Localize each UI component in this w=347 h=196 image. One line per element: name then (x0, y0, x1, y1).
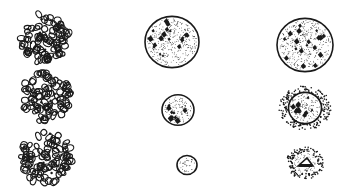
reticulated-nuclei-3 (18, 128, 76, 187)
degenerating-nuclei-3 (287, 146, 324, 179)
nuclei-figure (0, 0, 347, 196)
stippled-nuclei-with-chromatin-3 (177, 156, 197, 175)
degenerating-nuclei-2 (278, 85, 331, 130)
stippled-nuclei-with-chromatin-2 (162, 95, 194, 125)
stippled-nuclei-with-chromatin-1 (145, 16, 199, 67)
reticulated-nuclei-1 (17, 10, 73, 66)
reticulated-nuclei-2 (20, 69, 74, 125)
degenerating-nuclei-1 (277, 18, 333, 71)
